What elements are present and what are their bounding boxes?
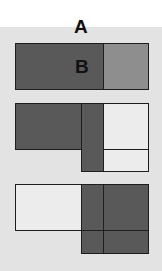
label-b: B — [75, 57, 89, 76]
white-rect-bottom — [103, 149, 149, 172]
dark-strip-bottom — [81, 230, 104, 254]
dark-strip — [81, 103, 104, 172]
dark-square-top — [103, 184, 149, 231]
white-rect-left — [15, 184, 82, 231]
white-rect-top — [103, 103, 149, 150]
region-b-dark — [15, 43, 104, 90]
dark-strip-top — [81, 184, 104, 231]
label-a: A — [74, 17, 88, 36]
dark-rect — [15, 103, 82, 150]
dark-square-bottom — [103, 230, 149, 254]
region-a-remainder — [103, 43, 149, 90]
